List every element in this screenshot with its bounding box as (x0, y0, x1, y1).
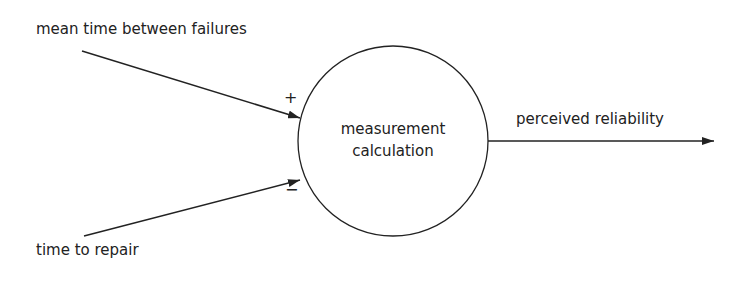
input-arrow-mtbf (82, 51, 300, 118)
input-label-mtbf: mean time between failures (36, 20, 247, 38)
plus-sign: + (284, 88, 297, 107)
input-label-ttr: time to repair (36, 241, 139, 259)
process-label-line1: measurement (318, 118, 468, 140)
input-arrow-ttr (84, 180, 300, 236)
process-label-line2: calculation (318, 140, 468, 162)
output-label: perceived reliability (516, 110, 664, 128)
process-label: measurement calculation (318, 118, 468, 162)
minus-sign: − (285, 180, 298, 199)
